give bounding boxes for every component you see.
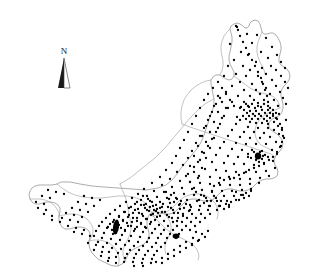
- sample-point: [186, 199, 188, 201]
- sample-point: [91, 197, 93, 199]
- sample-point: [136, 201, 138, 203]
- sample-point: [272, 156, 274, 158]
- sample-point: [130, 206, 132, 208]
- sample-point: [200, 213, 202, 215]
- sample-point: [119, 239, 121, 241]
- sample-point: [251, 83, 253, 85]
- sample-point: [142, 265, 144, 267]
- sample-point: [147, 250, 149, 252]
- sample-point: [268, 175, 270, 177]
- sample-point: [271, 46, 273, 48]
- sample-point: [257, 102, 259, 104]
- sample-point: [182, 215, 184, 217]
- sample-point: [217, 127, 219, 129]
- sample-point: [207, 145, 209, 147]
- sample-point: [255, 110, 257, 112]
- sample-point: [73, 231, 75, 233]
- sample-point: [43, 213, 45, 215]
- sample-point: [223, 115, 225, 117]
- sample-point: [148, 237, 150, 239]
- sample-point: [198, 199, 200, 201]
- sample-point: [189, 204, 191, 206]
- sample-point: [133, 257, 135, 259]
- sample-point: [47, 189, 49, 191]
- sample-point: [213, 137, 215, 139]
- sample-point: [149, 223, 151, 225]
- sample-point: [266, 95, 268, 97]
- sample-point: [106, 242, 108, 244]
- sample-point: [203, 202, 205, 204]
- sample-point: [250, 157, 252, 159]
- sample-point: [225, 107, 227, 109]
- sample-point: [260, 106, 262, 108]
- sample-point: [253, 167, 255, 169]
- sample-point: [269, 93, 271, 95]
- sample-point: [163, 191, 165, 193]
- sample-point: [128, 240, 130, 242]
- sample-point: [211, 111, 213, 113]
- sample-point: [128, 214, 130, 216]
- sample-point: [120, 248, 122, 250]
- sample-point: [169, 178, 171, 180]
- sample-point: [237, 29, 239, 31]
- sample-point: [108, 251, 110, 253]
- sample-point: [177, 217, 179, 219]
- sample-point: [173, 192, 175, 194]
- sample-point: [261, 122, 263, 124]
- sample-point: [263, 103, 265, 105]
- sample-point: [139, 236, 141, 238]
- sample-point: [146, 241, 148, 243]
- sample-point: [160, 233, 162, 235]
- sample-point: [231, 85, 233, 87]
- sample-point: [280, 61, 282, 63]
- sample-point: [278, 113, 280, 115]
- sample-point: [269, 117, 271, 119]
- sample-point: [138, 212, 140, 214]
- sample-point: [182, 213, 184, 215]
- sample-point: [237, 95, 239, 97]
- sample-point: [235, 25, 237, 27]
- sample-point: [267, 127, 269, 129]
- sample-point: [231, 190, 233, 192]
- sample-point: [156, 250, 158, 252]
- sample-point: [134, 228, 136, 230]
- sample-point: [245, 75, 247, 77]
- sample-point: [122, 219, 124, 221]
- sample-point: [169, 202, 171, 204]
- sample-point: [239, 136, 241, 138]
- sample-point: [133, 230, 135, 232]
- sample-point: [272, 109, 274, 111]
- sample-point: [111, 229, 113, 231]
- sample-point: [203, 195, 205, 197]
- sample-point: [43, 203, 45, 205]
- sample-point: [233, 59, 235, 61]
- sample-point: [185, 247, 187, 249]
- sample-point: [171, 186, 173, 188]
- sample-point: [257, 105, 259, 107]
- sample-point: [259, 93, 261, 95]
- sample-point: [223, 75, 225, 77]
- sample-point: [199, 107, 201, 109]
- sample-point: [283, 137, 285, 139]
- sample-point: [201, 151, 203, 153]
- sample-point: [275, 112, 277, 114]
- sample-point: [218, 182, 220, 184]
- sample-point: [175, 155, 177, 157]
- sample-point: [100, 255, 102, 257]
- sample-point: [175, 197, 177, 199]
- sample-point: [205, 197, 207, 199]
- sample-point: [226, 200, 228, 202]
- sample-point: [173, 249, 175, 251]
- sample-point: [119, 205, 121, 207]
- sample-point: [250, 188, 252, 190]
- sample-point: [229, 99, 231, 101]
- sample-point: [243, 197, 245, 199]
- sample-point: [115, 262, 117, 264]
- sample-point: [107, 260, 109, 262]
- sample-point: [213, 105, 215, 107]
- sample-point: [63, 193, 65, 195]
- sample-point: [191, 213, 193, 215]
- sample-point: [173, 255, 175, 257]
- sample-point: [124, 257, 126, 259]
- sample-point: [191, 123, 193, 125]
